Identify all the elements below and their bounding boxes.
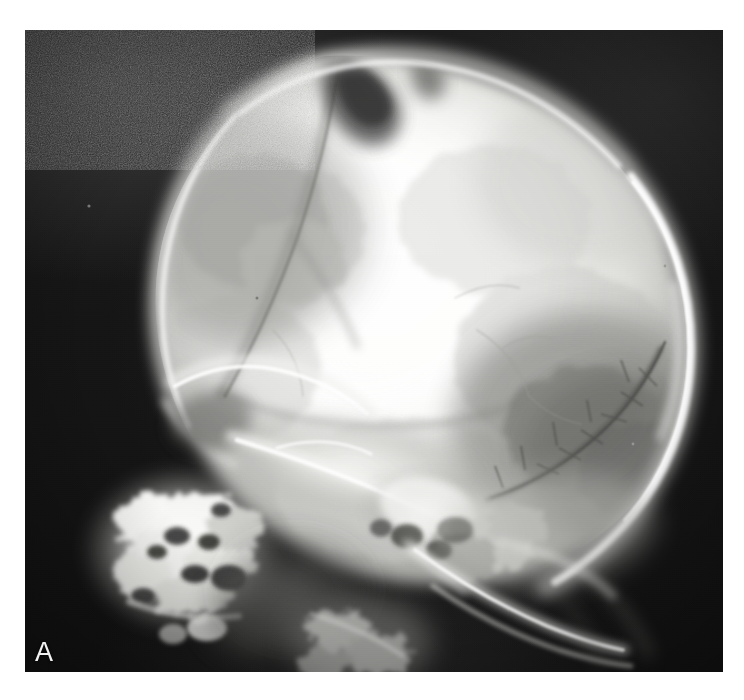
radiograph-film: A (25, 30, 723, 672)
external-auditory-canal (437, 517, 473, 543)
page-canvas: A (0, 0, 744, 700)
panel-label-a: A (35, 639, 54, 666)
skull-anatomy (25, 30, 723, 672)
